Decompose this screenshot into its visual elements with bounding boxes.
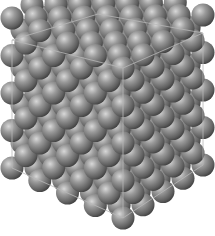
- sphere: [152, 30, 175, 53]
- sphere: [192, 4, 215, 27]
- crystal-lattice-render: [0, 0, 215, 236]
- sphere: [28, 19, 51, 42]
- sphere: [1, 7, 24, 30]
- sphere: [56, 32, 79, 55]
- sphere: [84, 44, 107, 67]
- sphere-lattice: [1, 0, 215, 230]
